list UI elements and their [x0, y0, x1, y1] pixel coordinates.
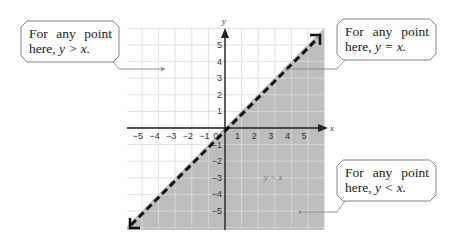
pointer-arrow-icon: [161, 67, 166, 71]
x-tick-label: −4: [149, 131, 159, 141]
x-tick-label: 2: [252, 131, 257, 141]
x-tick-label: −2: [183, 131, 193, 141]
inequality-diagram: x y −5−4−3−2−1012345 54321−1−2−3−4−5 y <…: [0, 0, 459, 244]
y-tick-label: 4: [217, 57, 222, 67]
region-label: y < x: [263, 172, 283, 182]
y-tick-label: 3: [217, 73, 222, 83]
y-axis-label: y: [221, 16, 226, 26]
y-tick-label: 1: [217, 106, 222, 116]
y-tick-label: −2: [212, 156, 222, 166]
x-tick-label: 3: [268, 131, 273, 141]
x-tick-label: 1: [235, 131, 240, 141]
x-tick-label: −3: [166, 131, 176, 141]
callout-above-pointer: [113, 62, 163, 69]
x-tick-label: 5: [301, 131, 306, 141]
y-tick-label: 2: [217, 90, 222, 100]
pointer-dot-icon: [298, 210, 301, 213]
callout-below: For any point here, y < x.: [345, 165, 429, 195]
callout-below-relation: y < x.: [375, 180, 406, 195]
y-axis-arrow-icon: [221, 28, 229, 38]
callout-above-relation: y > x.: [59, 41, 90, 56]
callout-above: For any point here, y > x.: [29, 26, 112, 56]
x-axis-label: x: [329, 123, 334, 133]
x-tick-label: 4: [285, 131, 290, 141]
callout-on-line: For any point here, y = x.: [345, 24, 429, 54]
y-tick-label: −3: [212, 173, 222, 183]
y-tick-label: −5: [212, 206, 222, 216]
x-tick-label: −1: [199, 131, 209, 141]
x-tick-label: −5: [133, 131, 143, 141]
callout-on-line-relation: y = x.: [375, 39, 406, 54]
y-tick-label: 5: [217, 40, 222, 50]
y-tick-label: −4: [212, 189, 222, 199]
